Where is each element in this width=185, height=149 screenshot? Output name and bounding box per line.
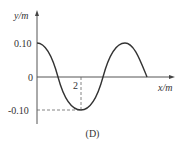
y-axis-arrow-icon	[35, 10, 39, 16]
wave-chart: y/m 0.10 0 -0.10 2 x/m	[0, 0, 185, 149]
x-tick-2: 2	[73, 80, 78, 91]
figure-caption: (D)	[0, 128, 185, 139]
y-tick-0.10: 0.10	[14, 38, 32, 49]
x-axis-label: x/m	[157, 82, 172, 93]
y-tick-0: 0	[28, 72, 33, 83]
x-axis-arrow-icon	[169, 75, 175, 79]
y-axis-label: y/m	[13, 10, 28, 21]
y-tick-neg0.10: -0.10	[8, 105, 29, 116]
